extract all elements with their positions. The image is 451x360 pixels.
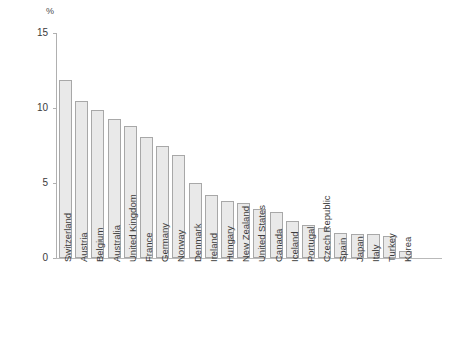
x-axis-category-label-text: Korea [403, 237, 413, 262]
x-axis-category-label: Australia [107, 262, 123, 278]
x-axis-category-label-text: Iceland [290, 231, 300, 262]
x-axis-category-label-text: Hungary [225, 226, 235, 262]
x-axis-category-label: Norway [171, 262, 187, 278]
bar-slot [285, 33, 301, 258]
x-axis-category-label: Canada [269, 262, 285, 278]
x-axis-category-label: Iceland [285, 262, 301, 278]
x-axis-category-label: France [139, 262, 155, 278]
y-axis-tick-mark [53, 258, 56, 259]
bar-slot [220, 33, 236, 258]
bar-slot [90, 33, 106, 258]
y-axis-tick-label: 10 [18, 102, 48, 113]
bar-slot [269, 33, 285, 258]
x-axis-category-label-text: Czech Republic [322, 195, 332, 262]
x-axis-category-label-text: Spain [338, 238, 348, 262]
x-axis-category-label: Switzerland [58, 262, 74, 278]
x-axis-category-label: Denmark [188, 262, 204, 278]
x-axis-category-label-text: France [144, 232, 154, 262]
x-axis-category-label: Spain [333, 262, 349, 278]
x-axis-category-label-text: Denmark [193, 223, 203, 262]
x-axis-category-label-text: Italy [371, 245, 381, 262]
x-axis-category-label: United States [252, 262, 268, 278]
x-axis-category-label-text: Germany [160, 223, 170, 262]
x-axis-category-label-text: United Kingdom [128, 194, 138, 262]
x-axis-category-label-text: Norway [176, 230, 186, 262]
x-axis-category-label: Germany [155, 262, 171, 278]
x-axis-category-label-text: Turkey [387, 233, 397, 262]
bar-slot [333, 33, 349, 258]
x-axis-category-label: Japan [350, 262, 366, 278]
x-axis-category-label-text: Belgium [95, 228, 105, 262]
x-axis-category-label-text: United States [257, 205, 267, 262]
x-axis-category-labels: SwitzerlandAustriaBelgiumAustraliaUnited… [57, 258, 442, 358]
x-axis-category-label-text: Austria [79, 232, 89, 262]
x-axis-category-label: Ireland [204, 262, 220, 278]
bar-slot [382, 33, 398, 258]
y-axis-tick-label: 15 [18, 27, 48, 38]
x-axis-category-label-text: Canada [274, 229, 284, 262]
x-axis-category-label-text: Portugal [306, 227, 316, 262]
x-axis-category-label-text: Switzerland [63, 213, 73, 262]
bar-chart: % 051015 SwitzerlandAustriaBelgiumAustra… [0, 0, 451, 360]
x-axis-category-label: New Zealand [236, 262, 252, 278]
bar-slot [350, 33, 366, 258]
x-axis-category-label-text: Australia [112, 225, 122, 262]
bar-slot [74, 33, 90, 258]
x-axis-category-label: Austria [74, 262, 90, 278]
bar-slot [139, 33, 155, 258]
x-axis-category-label: United Kingdom [123, 262, 139, 278]
bar-slot [398, 33, 414, 258]
x-axis-category-label: Hungary [220, 262, 236, 278]
x-axis-category-label-text: New Zealand [241, 206, 251, 262]
x-axis-category-label-text: Japan [355, 236, 365, 262]
y-axis-unit-label: % [46, 6, 54, 16]
x-axis-category-label: Italy [366, 262, 382, 278]
x-axis-category-label: Czech Republic [317, 262, 333, 278]
x-axis-category-label: Turkey [382, 262, 398, 278]
bar-slot [366, 33, 382, 258]
bar-slot [301, 33, 317, 258]
y-axis-tick-label: 0 [18, 252, 48, 263]
bar-slot [204, 33, 220, 258]
x-axis-category-label: Portugal [301, 262, 317, 278]
y-axis-tick-mark [53, 33, 56, 34]
y-axis-tick-label: 5 [18, 177, 48, 188]
y-axis-tick-mark [53, 108, 56, 109]
y-axis-tick-mark [53, 183, 56, 184]
x-axis-category-label: Belgium [90, 262, 106, 278]
x-axis-category-label: Korea [398, 262, 414, 278]
bar-slot [171, 33, 187, 258]
x-axis-category-label-text: Ireland [209, 233, 219, 262]
